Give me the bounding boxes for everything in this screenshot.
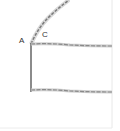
rope-diagram: A C — [0, 0, 120, 131]
diagonal-rope-shadow — [31, 0, 69, 44]
point-label-a: A — [19, 37, 24, 45]
point-label-c: C — [42, 31, 48, 39]
diagram-svg — [0, 0, 120, 131]
